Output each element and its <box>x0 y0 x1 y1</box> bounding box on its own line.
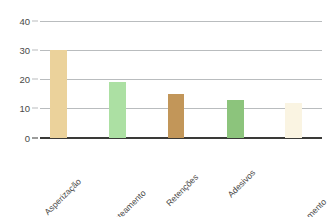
gridline-30 <box>40 50 322 51</box>
bar-asperizacao[interactable] <box>50 50 67 138</box>
y-tick-label-10: 10 <box>0 103 30 114</box>
plot-area <box>40 21 322 138</box>
y-tick-mark-0 <box>32 138 38 139</box>
y-tick-label-40: 40 <box>0 16 30 27</box>
y-axis: 40 30 20 10 0 <box>0 0 36 217</box>
bar-retencoes[interactable] <box>168 94 184 138</box>
y-tick-mark-20 <box>32 79 38 80</box>
x-tick-label-adesivos: Adesivos <box>226 168 258 200</box>
x-tick-label-microjateamento: Microjateamento <box>96 188 148 217</box>
y-tick-label-20: 20 <box>0 74 30 85</box>
y-tick-mark-10 <box>32 108 38 109</box>
x-tick-label-retencoes: Retenções <box>164 172 200 208</box>
y-tick-label-30: 30 <box>0 45 30 56</box>
gridline-20 <box>40 79 322 80</box>
bar-nenhum-tratamento[interactable] <box>285 103 302 138</box>
y-tick-label-0: 0 <box>0 133 30 144</box>
gridline-40 <box>40 21 322 22</box>
x-tick-label-asperizacao: Asperização <box>42 176 83 217</box>
x-tick-label-nenhum-tratamento: Nenhum tratamento <box>268 197 329 217</box>
bar-adesivos[interactable] <box>227 100 244 138</box>
bar-microjateamento[interactable] <box>109 82 126 138</box>
y-tick-mark-30 <box>32 50 38 51</box>
y-tick-mark-40 <box>32 21 38 22</box>
bar-chart: 40 30 20 10 0 Asperização Microjateament… <box>0 0 331 217</box>
